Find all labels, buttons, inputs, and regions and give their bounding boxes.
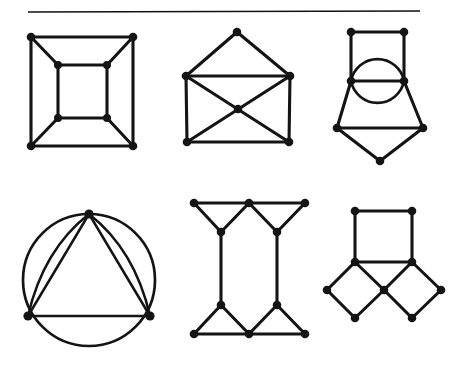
graph-figure-plate: [0, 0, 460, 369]
graph-3-square-circle-pentagon: [333, 28, 428, 166]
graph-vertex: [347, 28, 356, 37]
graph-vertex: [380, 286, 389, 295]
graph-vertex: [323, 286, 332, 295]
graph-vertex: [286, 72, 295, 81]
lower-right-edge: [404, 81, 423, 128]
graph-vertex: [351, 207, 360, 216]
graph-vertex: [408, 207, 417, 216]
graph-vertex: [54, 114, 62, 122]
spoke-edge: [31, 118, 58, 146]
graph-vertex: [183, 138, 192, 147]
graph-vertex: [437, 286, 446, 295]
lower-arc-edge: [351, 81, 404, 103]
triangle-edge: [277, 305, 305, 334]
graph-vertex: [84, 209, 93, 218]
outer-circle-edges: [23, 214, 155, 346]
bottom-right-edge: [380, 128, 423, 161]
side-edge: [289, 76, 290, 142]
graph-vertex: [27, 33, 36, 42]
spoke-edge: [31, 37, 58, 65]
roof-edge: [186, 32, 237, 76]
triangle-edge: [277, 203, 305, 232]
side-edge: [186, 76, 187, 142]
graph-vertex: [27, 142, 36, 151]
graph-vertex: [285, 138, 294, 147]
graph-vertex: [190, 330, 199, 339]
triangle-right-edge: [89, 214, 150, 316]
graph-vertex: [419, 124, 428, 133]
figure-canvas: [0, 0, 460, 369]
lower-left-edge: [337, 81, 351, 128]
triangle-edge: [194, 203, 221, 232]
spoke-edge: [107, 118, 133, 146]
graph-5-h-shape: [190, 199, 310, 339]
inner-square-edges: [58, 65, 107, 118]
triangle-edge: [194, 305, 221, 334]
triangle-left-edge: [28, 214, 89, 316]
triangle-edge: [249, 203, 277, 232]
graph-vertex: [145, 311, 154, 320]
graph-vertex: [182, 72, 191, 81]
horizontal-rule: [28, 11, 420, 12]
graph-vertex: [129, 33, 138, 42]
graph-vertex: [333, 124, 342, 133]
graph-6-square-two-diamonds: [323, 207, 446, 323]
graph-1-nested-squares: [27, 33, 138, 151]
bottom-left-edge: [337, 128, 380, 161]
diamond-edge: [412, 262, 441, 290]
roof-edge: [237, 32, 290, 76]
diamond-edge: [355, 262, 384, 290]
triangle-edge: [221, 305, 249, 334]
graph-vertex: [273, 301, 282, 310]
diamond-edge: [355, 290, 384, 318]
graph-vertex: [376, 157, 385, 166]
graph-vertex: [351, 258, 360, 267]
graph-vertex: [347, 77, 356, 86]
graph-vertex: [129, 142, 138, 151]
triangle-edge: [249, 305, 277, 334]
diamond-edge: [384, 290, 412, 318]
graph-vertex: [400, 28, 409, 37]
graph-2-envelope: [182, 28, 295, 147]
graph-vertex: [233, 28, 242, 37]
diamond-edge: [412, 290, 441, 318]
graph-vertex: [217, 228, 226, 237]
graph-vertex: [190, 199, 199, 208]
graph-vertex: [408, 258, 417, 267]
triangle-edge: [221, 203, 249, 232]
diamond-edge: [327, 262, 355, 290]
graph-vertex: [23, 311, 32, 320]
graph-vertex: [54, 61, 62, 69]
graph-vertex: [301, 330, 310, 339]
diamond-edge: [384, 262, 412, 290]
graph-vertex: [103, 114, 111, 122]
spoke-edge: [107, 37, 133, 65]
graph-4-circle-triangle: [23, 209, 155, 346]
graph-vertex: [301, 199, 310, 208]
diamond-edge: [327, 290, 355, 318]
graph-vertex: [103, 61, 111, 69]
graph-vertex: [408, 314, 417, 323]
graph-vertex: [245, 330, 254, 339]
graph-vertex: [351, 314, 360, 323]
graph-vertex: [400, 77, 409, 86]
upper-arc-edge: [351, 59, 404, 81]
graph-vertex: [217, 301, 226, 310]
graph-vertex: [273, 228, 282, 237]
graph-vertex: [234, 105, 243, 114]
graph-vertex: [245, 199, 254, 208]
